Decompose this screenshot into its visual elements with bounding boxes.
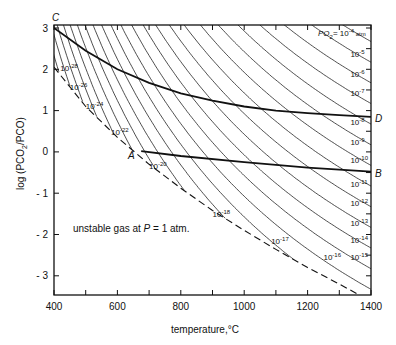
iso-po2-curve [48,0,378,128]
iso-po2-curve [48,12,70,86]
y-axis-title: log (PCO2/PCO) [15,117,28,190]
po2-curve-label: 10-8 [350,117,365,127]
po2-curve-label: 10-14 [350,235,368,245]
x-tick-label: 1000 [233,301,256,312]
y-tick-label: 1 [42,105,48,116]
po2-curve-label: 10-11 [350,179,368,189]
po2-curve-label: 10-16 [323,252,341,262]
iso-po2-curve [48,33,59,72]
y-tick-label: - 1 [36,188,48,199]
series-a-b [141,151,371,172]
chart-canvas: 4006008001000120014003210- 1- 2- 3 10-51… [0,0,396,345]
x-axis-title: temperature,°C [171,324,239,335]
y-tick-label: 0 [42,146,48,157]
x-tick-label: 400 [46,301,63,312]
y-tick-label: - 3 [36,270,48,281]
axis-ticks: 4006008001000120014003210- 1- 2- 3 [36,23,382,313]
po2-curve-label: 10-24 [86,101,104,111]
point-label-b: B [375,168,382,179]
po2-curve-label: 10-13 [350,218,368,228]
y-tick-label: 3 [42,23,48,34]
iso-po2-curve [48,0,294,259]
iso-po2-curve [48,0,378,107]
iso-po2-curve [48,0,378,148]
point-label-d: D [375,113,382,124]
po2-curve-label: 10-9 [350,137,365,147]
point-label-c: C [52,12,60,23]
y-tick-label: 2 [42,64,48,75]
po2-curve-label: 10-18 [213,209,231,219]
po2-curve-label: 10-6 [350,69,365,79]
iso-po2-curve [48,0,378,45]
iso-po2-curve [48,0,226,218]
x-tick-label: 1200 [296,301,319,312]
po2-curve-label: 10-20 [149,161,167,171]
iso-po2-curve [48,0,378,293]
x-tick-label: 600 [109,301,126,312]
po2-curve-label: 10-10 [350,155,368,165]
po2-curve-label: 10-17 [271,236,289,246]
po2-curve-label: 10-15 [350,252,368,262]
po2-iso-curves [48,0,378,293]
po2-curve-label: 10-12 [350,198,368,208]
y-tick-label: - 2 [36,229,48,240]
iso-po2-curve [48,0,378,86]
x-tick-label: 800 [172,301,189,312]
po2-curve-label: 10-7 [350,88,365,98]
point-label-a: A [127,150,135,161]
iso-po2-curve [48,54,51,65]
po2-curve-label: 10-28 [60,63,78,73]
po2-legend-label: PO2= 10-4 atm [318,28,366,40]
unstable-gas-annotation: unstable gas at P = 1 atm. [73,223,189,234]
po2-curve-label: 10-22 [111,127,129,137]
x-tick-label: 1400 [360,301,383,312]
